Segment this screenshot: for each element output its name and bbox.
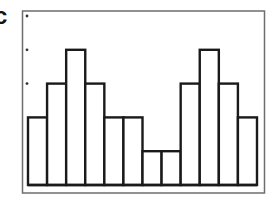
bar-6 — [123, 117, 142, 185]
bar-4 — [85, 84, 104, 185]
y-tick-dots — [26, 15, 29, 85]
bar-9 — [181, 84, 200, 185]
bar-3 — [66, 50, 85, 185]
bar-2 — [47, 84, 66, 185]
y-tick-dot — [26, 15, 29, 18]
bar-5 — [104, 117, 123, 185]
bar-1 — [28, 117, 47, 185]
bar-8 — [162, 151, 181, 185]
bar-11 — [219, 84, 238, 185]
bar-7 — [143, 151, 162, 185]
y-tick-dot — [26, 48, 29, 51]
bar-12 — [238, 117, 257, 185]
bar-chart — [0, 0, 273, 208]
y-tick-dot — [26, 82, 29, 85]
bars-group — [28, 50, 257, 185]
bar-10 — [200, 50, 219, 185]
